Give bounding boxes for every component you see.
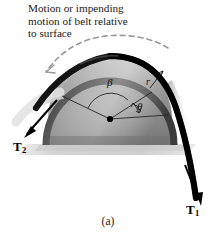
motion-caption: Motion or impending motion of belt relat… bbox=[28, 2, 204, 40]
drum-center-dot bbox=[107, 116, 113, 122]
radius-label: r bbox=[146, 76, 150, 87]
figure-number-label: (a) bbox=[0, 215, 216, 227]
tension-2-symbol: T bbox=[13, 139, 22, 154]
caption-line-3: to surface bbox=[28, 27, 204, 40]
angle-theta-label: θ bbox=[137, 100, 142, 112]
belt-friction-figure: Motion or impending motion of belt relat… bbox=[0, 0, 216, 239]
caption-line-1: Motion or impending bbox=[28, 2, 204, 15]
caption-line-2: motion of belt relative bbox=[28, 15, 204, 28]
ground-shadow bbox=[18, 144, 196, 155]
tension-2-label: T2 bbox=[13, 139, 26, 155]
angle-beta-label: β bbox=[107, 76, 112, 88]
tension-2-subscript: 2 bbox=[22, 145, 27, 155]
